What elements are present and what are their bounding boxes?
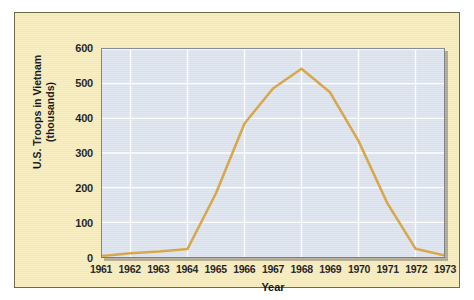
x-tick-label: 1962 [119, 263, 141, 275]
x-tick-label: 1965 [205, 263, 227, 275]
x-tick-label: 1972 [405, 263, 427, 275]
x-axis-tick-labels: 1961196219631964196519661967196819691970… [101, 263, 445, 279]
y-axis-title-line1: U.S. Troops in Vietnam [31, 55, 43, 169]
y-axis-title-line2: (thousands) [44, 21, 57, 203]
y-tick-label: 500 [75, 77, 93, 89]
x-axis-title: Year [101, 281, 445, 293]
y-axis-tick-labels: 0100200300400500600 [61, 48, 97, 258]
y-tick-label: 100 [75, 217, 93, 229]
data-line-series [102, 49, 444, 257]
plot-area [101, 48, 445, 258]
x-tick-label: 1970 [348, 263, 370, 275]
x-tick-label: 1973 [434, 263, 456, 275]
y-tick-label: 200 [75, 182, 93, 194]
y-axis-title: U.S. Troops in Vietnam (thousands) [31, 21, 57, 203]
y-tick-label: 300 [75, 147, 93, 159]
x-tick-label: 1963 [147, 263, 169, 275]
y-tick-label: 600 [75, 42, 93, 54]
y-tick-label: 400 [75, 112, 93, 124]
x-tick-label: 1969 [319, 263, 341, 275]
x-tick-label: 1961 [90, 263, 112, 275]
x-tick-label: 1968 [291, 263, 313, 275]
x-tick-label: 1964 [176, 263, 198, 275]
series-line [102, 69, 444, 256]
chart-card-panel: U.S. Troops in Vietnam (thousands) 01002… [14, 12, 460, 288]
x-tick-label: 1967 [262, 263, 284, 275]
x-tick-label: 1971 [377, 263, 399, 275]
x-tick-label: 1966 [233, 263, 255, 275]
chart-page: U.S. Troops in Vietnam (thousands) 01002… [0, 0, 474, 300]
